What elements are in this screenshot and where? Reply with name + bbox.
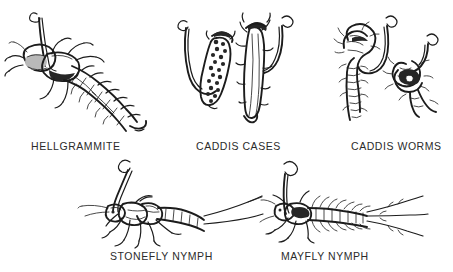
caption-stonefly-nymph: STONEFLY NYMPH [110, 250, 213, 262]
caption-hellgrammite: HELLGRAMMITE [31, 140, 120, 152]
hellgrammite-larva-on-hook-icon [2, 4, 154, 132]
stonefly-nymph-on-hook-icon [78, 154, 264, 248]
caddis-cases-on-hooks-icon [172, 6, 298, 132]
caption-mayfly-nymph: MAYFLY NYMPH [281, 250, 369, 262]
illustration-plate: HELLGRAMMITE [0, 0, 453, 272]
caption-caddis-cases: CADDIS CASES [196, 140, 281, 152]
mayfly-nymph-on-hook-icon [248, 154, 434, 248]
caddis-worms-on-hooks-icon [330, 8, 450, 132]
caption-caddis-worms: CADDIS WORMS [351, 140, 442, 152]
